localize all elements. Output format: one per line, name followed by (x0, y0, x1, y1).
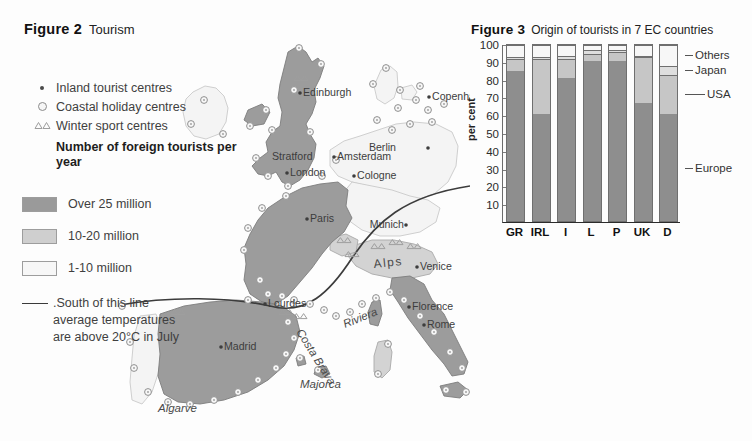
svg-text:Lourdes: Lourdes (268, 297, 306, 309)
figure-3-chart: Figure 3Origin of tourists in 7 EC count… (463, 0, 752, 250)
class-label-1-10-million: 1-10 million (68, 261, 132, 275)
x-tick-D: D (652, 226, 683, 238)
isotherm-line-3: are above 20°C in July (53, 330, 179, 344)
bar-D[interactable] (659, 44, 678, 222)
segment-L-usa (584, 54, 601, 61)
bar-P[interactable] (608, 44, 627, 222)
y-tick-90: 90 (486, 57, 499, 69)
svg-text:Algarve: Algarve (157, 402, 197, 414)
svg-text:Munich: Munich (370, 218, 404, 230)
y-tick-10: 10 (486, 199, 499, 211)
isotherm-legend: .South of this line average temperatures… (22, 295, 179, 346)
svg-text:Venice: Venice (420, 260, 452, 272)
figure-3-number: Figure 3 (471, 22, 525, 37)
svg-text:Majorca: Majorca (300, 378, 341, 390)
isotherm-line-1: .South of this line (53, 296, 149, 310)
class-legend: Over 25 million 10-20 million 1-10 milli… (22, 188, 151, 284)
swatch-10-20-million (22, 229, 57, 244)
legend-label-coastal: Coastal holiday centres (56, 100, 186, 114)
legend-label-inland: Inland tourist centres (56, 81, 172, 95)
class-legend-row-over25: Over 25 million (22, 188, 151, 220)
symbol-legend: Inland tourist centres Coastal holiday c… (28, 78, 186, 135)
legend-label-others: Others (695, 49, 730, 61)
legend-leader-line (685, 94, 705, 95)
svg-text:Cologne: Cologne (357, 169, 397, 181)
legend-item-inland: Inland tourist centres (28, 78, 186, 97)
segment-D-others (660, 45, 677, 66)
legend-usa: USA (685, 88, 731, 100)
segment-GR-usa (507, 59, 524, 71)
segment-IRL-others (533, 45, 550, 57)
y-tick-100: 100 (480, 39, 499, 51)
svg-text:Berlin: Berlin (369, 141, 396, 153)
segment-P-europe (609, 61, 626, 221)
segment-D-usa (660, 75, 677, 114)
segment-UK-others (635, 45, 652, 56)
swatch-1-10-million (22, 261, 57, 276)
svg-text:Riviera: Riviera (341, 305, 379, 330)
legend-label-winter: Winter sport centres (56, 119, 168, 133)
figure-3-subtitle: Origin of tourists in 7 EC countries (531, 23, 713, 37)
coastal-circle-icon (28, 102, 56, 111)
winter-triangle-icon (28, 121, 56, 130)
class-label-10-20-million: 10-20 million (68, 229, 139, 243)
swatch-over-25-million (22, 197, 57, 212)
isotherm-line-icon (22, 303, 48, 304)
inland-dot-icon (28, 86, 56, 90)
segment-IRL-europe (533, 114, 550, 221)
legend-leader-line (685, 70, 693, 71)
y-axis-ticks: 102030405060708090100 (473, 45, 499, 223)
segment-I-europe (558, 78, 575, 221)
chart-plot-area: per cent 102030405060708090100 OthersJap… (463, 45, 752, 250)
bar-GR[interactable] (506, 44, 525, 222)
figure-page: Figure 2Tourism (0, 0, 752, 441)
svg-text:Rome: Rome (427, 318, 455, 330)
y-tick-70: 70 (486, 92, 499, 104)
svg-text:Edinburgh: Edinburgh (303, 86, 351, 98)
figure-3-title: Figure 3Origin of tourists in 7 EC count… (471, 20, 713, 38)
y-tick-40: 40 (486, 146, 499, 158)
bar-IRL[interactable] (532, 44, 551, 222)
segment-GR-europe (507, 71, 524, 221)
legend-others: Others (685, 49, 730, 61)
segment-D-japan (660, 66, 677, 75)
y-tick-30: 30 (486, 164, 499, 176)
segment-I-others (558, 45, 575, 56)
bars-container (502, 45, 680, 223)
segment-IRL-usa (533, 59, 550, 114)
class-label-over-25-million: Over 25 million (68, 197, 151, 211)
segment-P-usa (609, 52, 626, 61)
segment-UK-usa (635, 57, 652, 103)
svg-text:Stratford: Stratford (272, 150, 313, 162)
segment-L-europe (584, 61, 601, 221)
y-tick-50: 50 (486, 128, 499, 140)
figure-2-tourism-map: Figure 2Tourism (0, 0, 470, 441)
legend-item-coastal: Coastal holiday centres (28, 97, 186, 116)
segment-D-europe (660, 114, 677, 221)
bar-I[interactable] (557, 44, 576, 222)
legend-label-japan: Japan (695, 64, 726, 76)
isotherm-legend-text: .South of this line average temperatures… (53, 295, 179, 346)
class-legend-row-10-20: 10-20 million (22, 220, 151, 252)
legend-japan: Japan (685, 64, 726, 76)
bar-UK[interactable] (634, 44, 653, 222)
svg-text:London: London (290, 166, 325, 178)
svg-text:Madrid: Madrid (224, 340, 256, 352)
legend-label-europe: Europe (695, 162, 732, 174)
legend-leader-line (685, 55, 693, 56)
legend-leader-line (685, 168, 693, 169)
isotherm-line-2: average temperatures (53, 313, 175, 327)
segment-GR-others (507, 45, 524, 57)
legend-item-winter: Winter sport centres (28, 116, 186, 135)
y-tick-60: 60 (486, 110, 499, 122)
y-tick-80: 80 (486, 75, 499, 87)
segment-I-usa (558, 59, 575, 78)
legend-label-usa: USA (707, 88, 731, 100)
class-legend-title: Number of foreign tourists per year (56, 140, 256, 170)
svg-text:Florence: Florence (412, 300, 453, 312)
legend-europe: Europe (685, 162, 732, 174)
svg-text:Paris: Paris (310, 212, 334, 224)
segment-UK-europe (635, 103, 652, 221)
class-legend-row-1-10: 1-10 million (22, 252, 151, 284)
bar-L[interactable] (583, 44, 602, 222)
